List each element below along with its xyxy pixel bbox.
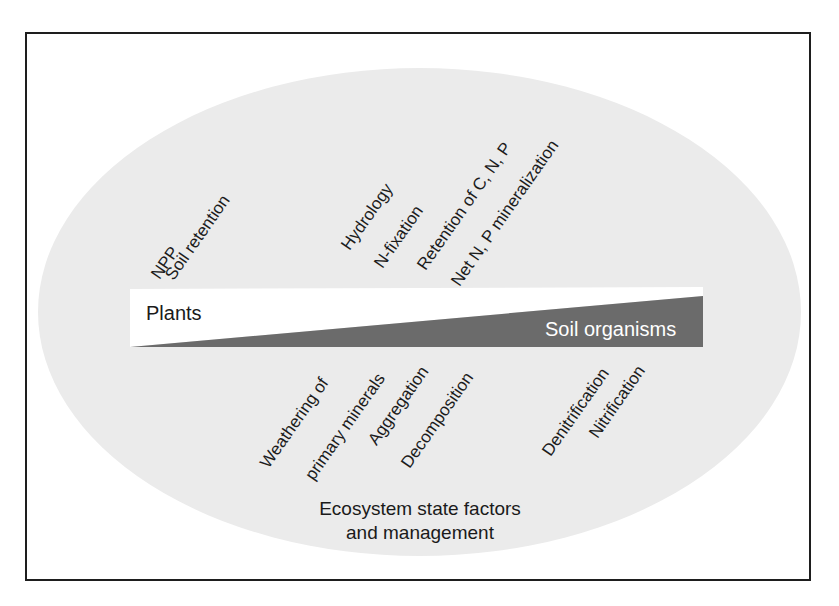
footer-line-2: and management (300, 521, 540, 545)
plants-label: Plants (146, 302, 202, 325)
ecosystem-state-factors-label: Ecosystem state factors and management (300, 497, 540, 545)
soil-organisms-label: Soil organisms (545, 318, 676, 341)
footer-line-1: Ecosystem state factors (300, 497, 540, 521)
